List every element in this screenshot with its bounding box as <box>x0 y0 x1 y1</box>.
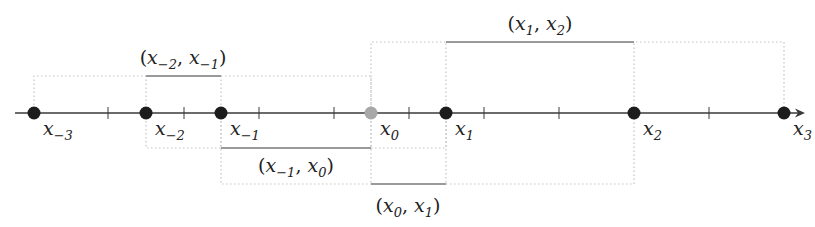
dotted-box-x-1_x0 <box>146 113 446 148</box>
point-label-x_-2: x−2 <box>155 117 185 143</box>
point-label-x_1: x1 <box>455 117 474 143</box>
number-line-diagram: x−3x−2x−1x0x1x2x3(x−2, x−1)(x1, x2)(x−1,… <box>0 0 815 227</box>
point-x_-1 <box>215 107 228 120</box>
point-x_2 <box>628 107 641 120</box>
point-label-x_2: x2 <box>643 117 662 143</box>
number-line-axis <box>15 109 805 118</box>
point-x_-3 <box>28 107 41 120</box>
point-label-x_-1: x−1 <box>230 117 260 143</box>
interval-label-x-2_x-1: (x−2, x−1) <box>140 46 227 72</box>
point-label-x_3: x3 <box>793 117 812 143</box>
labels: x−3x−2x−1x0x1x2x3(x−2, x−1)(x1, x2)(x−1,… <box>43 12 812 220</box>
point-label-x_0: x0 <box>380 117 399 143</box>
point-x_-2 <box>140 107 153 120</box>
point-x_1 <box>440 107 453 120</box>
interval-label-x1_x2: (x1, x2) <box>508 12 573 38</box>
interval-label-x0_x1: (x0, x1) <box>376 194 441 220</box>
dotted-box-x-2_x-1 <box>34 76 371 113</box>
dotted-box-x1_x2 <box>371 42 784 113</box>
interval-label-x-1_x0: (x−1, x0) <box>258 154 334 180</box>
point-x_0 <box>365 107 378 120</box>
point-label-x_-3: x−3 <box>43 117 73 143</box>
point-x_3 <box>778 107 791 120</box>
